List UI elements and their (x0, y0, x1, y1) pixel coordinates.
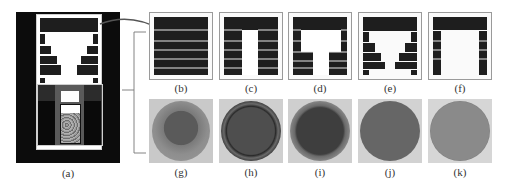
label-f: (f) (440, 82, 480, 94)
crystal-disc-i (290, 101, 350, 161)
bracket (122, 32, 146, 153)
label-j: (j) (370, 166, 410, 178)
label-h: (h) (231, 166, 271, 178)
photo-k (428, 99, 492, 163)
photo-j (358, 99, 422, 163)
label-k: (k) (440, 166, 480, 178)
photo-h (219, 99, 283, 163)
label-d: (d) (300, 82, 340, 94)
label-c: (c) (231, 82, 271, 94)
panel-c (219, 12, 283, 80)
crystal-disc-h (221, 101, 281, 161)
panel-d (288, 12, 352, 80)
label-i: (i) (300, 166, 340, 178)
insulation-layout-c (220, 13, 282, 79)
panel-b (149, 12, 213, 80)
crystal-disc-j (360, 101, 420, 161)
label-g: (g) (161, 166, 201, 178)
insulation-layout-d (289, 13, 351, 79)
label-b: (b) (161, 82, 201, 94)
crystal-disc-k (430, 101, 490, 161)
panel-f (428, 12, 492, 80)
insulation-layout-f (429, 13, 491, 79)
panel-e (358, 12, 422, 80)
insulation-layout-b (150, 13, 212, 79)
photo-i (288, 99, 352, 163)
insulation-layout-e (359, 13, 421, 79)
crystal-disc-g (152, 101, 210, 161)
photo-g (149, 99, 213, 163)
label-e: (e) (370, 82, 410, 94)
